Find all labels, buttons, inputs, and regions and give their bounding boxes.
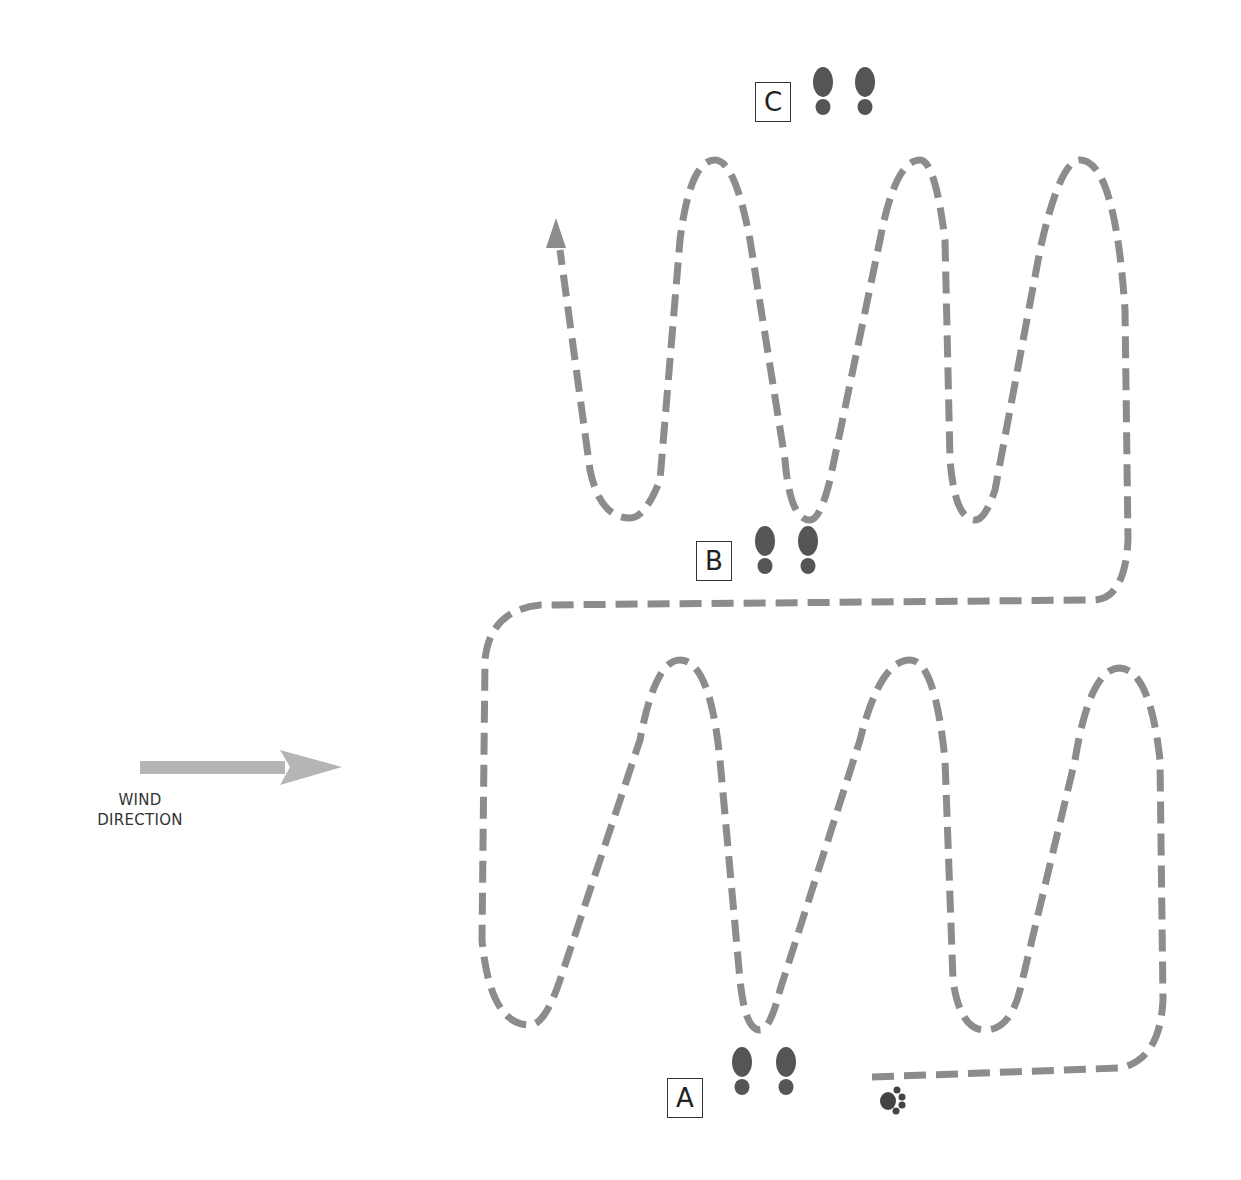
paw-print-icon — [880, 1087, 906, 1115]
checkpoint-c-text: C — [764, 87, 782, 117]
checkpoint-b-label: B — [696, 541, 732, 581]
footprints-b-icon — [755, 526, 818, 574]
search-path — [482, 160, 1163, 1077]
wind-direction-label: WIND DIRECTION — [65, 790, 215, 830]
checkpoint-a-text: A — [676, 1083, 694, 1113]
path-end-arrow-icon — [546, 218, 566, 248]
wind-label-line1: WIND — [65, 790, 215, 810]
search-pattern-diagram — [0, 0, 1241, 1180]
checkpoint-b-text: B — [705, 546, 723, 576]
footprints-c-icon — [813, 67, 875, 115]
footprints-a-icon — [732, 1047, 796, 1095]
checkpoint-a-label: A — [667, 1078, 703, 1118]
wind-label-line2: DIRECTION — [65, 810, 215, 830]
checkpoint-c-label: C — [755, 82, 791, 122]
wind-arrow-icon — [140, 750, 342, 785]
